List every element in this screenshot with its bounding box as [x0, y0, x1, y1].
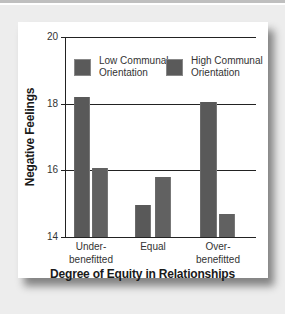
gridline-20: [65, 37, 256, 38]
bar-underbenefitted-low: [74, 97, 90, 237]
x-axis: [65, 237, 256, 238]
y-axis: [65, 37, 66, 238]
x-category-label: Equal: [123, 240, 183, 253]
y-tick-label: 16: [38, 164, 58, 175]
legend-item-low: Low Communal Orientation: [74, 55, 168, 79]
gridline-18: [65, 104, 256, 105]
legend-item-high: High Communal Orientation: [166, 55, 263, 79]
bar-underbenefitted-high: [92, 168, 108, 237]
y-tick-label: 20: [38, 31, 58, 42]
y-tick-label: 14: [38, 231, 58, 242]
y-axis-title: Negative Feelings: [23, 57, 37, 217]
y-tick-label: 18: [38, 98, 58, 109]
legend-swatch-low: [74, 59, 91, 76]
x-axis-title: Degree of Equity in Relationships: [0, 267, 285, 281]
bar-overbenefitted-high: [219, 214, 235, 237]
bar-equal-low: [135, 205, 151, 237]
bar-overbenefitted-low: [200, 102, 217, 237]
x-category-label: Under- benefitted: [61, 240, 121, 266]
legend-label-low: Low Communal Orientation: [99, 55, 168, 79]
legend-swatch-high: [166, 59, 183, 76]
x-category-label: Over- benefitted: [188, 240, 248, 266]
bar-equal-high: [155, 177, 171, 237]
legend-label-high: High Communal Orientation: [191, 55, 263, 79]
top-rule: [0, 0, 285, 3]
